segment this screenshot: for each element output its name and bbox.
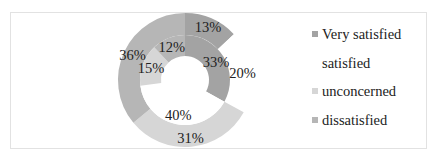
data-label: 15% (138, 60, 165, 76)
legend-item-unconcerned: unconcerned (312, 81, 396, 101)
legend-item-very-satisfied: Very satisfied (312, 24, 401, 44)
data-label: 31% (177, 130, 204, 146)
data-label: 12% (158, 39, 185, 55)
data-label: 20% (229, 65, 256, 81)
legend-label: Very satisfied (322, 26, 401, 43)
legend-swatch-icon (312, 117, 318, 123)
legend-swatch-icon (312, 31, 318, 37)
data-label: 13% (195, 19, 222, 35)
legend-item-dissatisfied: dissatisfied (312, 110, 387, 130)
legend-swatch-icon (312, 88, 318, 94)
legend-label: satisfied (322, 55, 370, 72)
legend-label: unconcerned (322, 83, 396, 100)
data-label: 33% (203, 54, 230, 70)
data-label: 40% (165, 107, 192, 123)
legend-swatch-icon (312, 60, 318, 66)
legend-label: dissatisfied (322, 112, 387, 129)
legend-item-satisfied: satisfied (312, 53, 370, 73)
